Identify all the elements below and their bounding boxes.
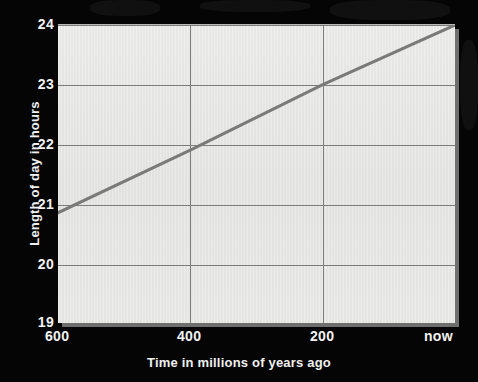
series-length-of-day xyxy=(58,25,455,323)
chart-figure: 24 23 22 21 20 19 600 400 200 now Time i… xyxy=(0,0,478,382)
scan-noise xyxy=(200,0,310,12)
scan-noise xyxy=(330,0,450,20)
y-axis-title: Length of day in hours xyxy=(27,84,42,264)
plot-inner xyxy=(58,25,455,323)
scan-noise xyxy=(90,0,160,16)
y-tick-label: 24 xyxy=(2,17,54,31)
x-tick-label: 400 xyxy=(177,329,201,343)
y-tick-label: 19 xyxy=(2,315,54,329)
x-tick-label: 600 xyxy=(45,329,69,343)
scan-noise xyxy=(460,40,478,130)
x-tick-label: now xyxy=(424,329,453,343)
x-axis-title: Time in millions of years ago xyxy=(0,355,478,370)
x-tick-label: 200 xyxy=(310,329,334,343)
plot-area xyxy=(58,24,455,323)
series-polyline xyxy=(58,25,455,213)
